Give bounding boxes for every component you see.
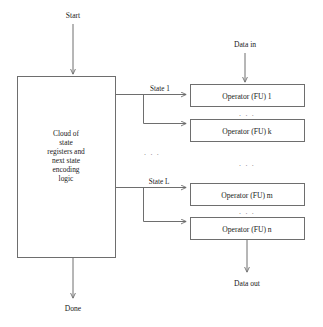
control-block-line-2: state	[59, 138, 73, 147]
control-block-line-1: Cloud of	[53, 129, 80, 138]
operators-ellipsis-1: . . .	[239, 109, 255, 118]
operators-ellipsis-3: . . .	[239, 207, 255, 216]
operators-ellipsis-2: . . .	[239, 159, 255, 168]
data-out-label: Data out	[234, 279, 261, 288]
operator-label-m: Operator (FU) m	[221, 191, 273, 200]
control-block-line-6: logic	[59, 174, 74, 183]
control-block-line-5: encoding	[52, 165, 79, 174]
block-diagram: Start Cloud of state registers and next …	[0, 0, 323, 327]
operator-label-n: Operator (FU) n	[222, 225, 272, 234]
figure-caption	[0, 311, 323, 327]
start-label: Start	[66, 11, 81, 20]
operator-label-1: Operator (FU) 1	[222, 92, 272, 101]
data-in-label: Data in	[234, 40, 256, 49]
operator-label-k: Operator (FU) k	[222, 127, 272, 136]
states-ellipsis: . . .	[144, 148, 160, 157]
control-block-line-4: next state	[52, 156, 81, 165]
control-block-line-3: registers and	[47, 147, 85, 156]
state-last-label: State L	[149, 178, 170, 186]
state-first-label: State 1	[150, 85, 170, 93]
diagram-canvas: Start Cloud of state registers and next …	[0, 0, 323, 327]
